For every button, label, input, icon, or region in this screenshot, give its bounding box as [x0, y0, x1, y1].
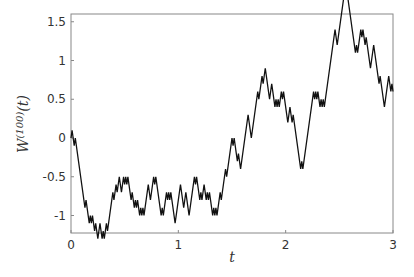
- x-tick-label: 0: [67, 238, 75, 252]
- y-tick-label: 0.5: [47, 92, 66, 106]
- y-tick-label: -0.5: [43, 170, 66, 184]
- x-tick-label: 2: [282, 238, 290, 252]
- y-tick-label: 1.5: [47, 15, 66, 29]
- y-axis-label: W(100)(t): [14, 95, 31, 153]
- svg-text:W(100)(t): W(100)(t): [14, 95, 31, 153]
- y-tick-label: -1: [54, 209, 66, 223]
- x-tick-label: 1: [175, 238, 183, 252]
- x-tick-label: 3: [389, 238, 397, 252]
- y-tick-label: 0: [58, 131, 66, 145]
- plot-frame: [71, 14, 393, 233]
- x-axis-label: t: [229, 249, 235, 265]
- y-tick-label: 1: [58, 54, 66, 68]
- random-walk-chart: 0123-1-0.500.511.5 t W(100)(t): [0, 0, 414, 277]
